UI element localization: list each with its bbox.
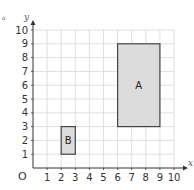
x-tick-label: 8: [143, 172, 149, 183]
x-tick-label: 10: [168, 172, 181, 183]
y-tick-label: 1: [22, 149, 28, 160]
x-tick-label: 9: [157, 172, 163, 183]
y-tick-label: 5: [22, 94, 28, 105]
x-tick-label: 1: [44, 172, 50, 183]
y-tick-label: 3: [22, 121, 28, 132]
y-tick-label: 4: [22, 107, 28, 118]
y-axis-label: y: [23, 12, 30, 22]
rectangle-a: A: [118, 44, 160, 127]
x-tick-label: 5: [100, 172, 106, 183]
y-tick-label: 9: [22, 38, 28, 49]
rectangle-a-label: A: [135, 80, 142, 91]
y-tick-label: 2: [22, 135, 28, 146]
y-tick-label: 7: [22, 66, 28, 77]
axes: x y O: [18, 12, 193, 183]
y-tick-label: 10: [15, 25, 28, 36]
rectangle-b-label: B: [65, 135, 72, 146]
y-axis-arrow-icon: [31, 20, 36, 25]
x-tick-label: 7: [129, 172, 135, 183]
corner-mark: a: [2, 14, 6, 21]
origin-label: O: [18, 170, 27, 183]
x-tick-label: 4: [86, 172, 92, 183]
y-tick-label: 6: [22, 80, 28, 91]
rectangle-b: B: [61, 127, 75, 155]
x-tick-label: 3: [72, 172, 78, 183]
x-tick-label: 2: [58, 172, 64, 183]
x-tick-label: 6: [114, 172, 120, 183]
x-axis-label: x: [188, 158, 193, 168]
y-tick-label: 8: [22, 52, 28, 63]
coordinate-grid: a AB x y O 1234567891012345678910: [0, 0, 194, 190]
